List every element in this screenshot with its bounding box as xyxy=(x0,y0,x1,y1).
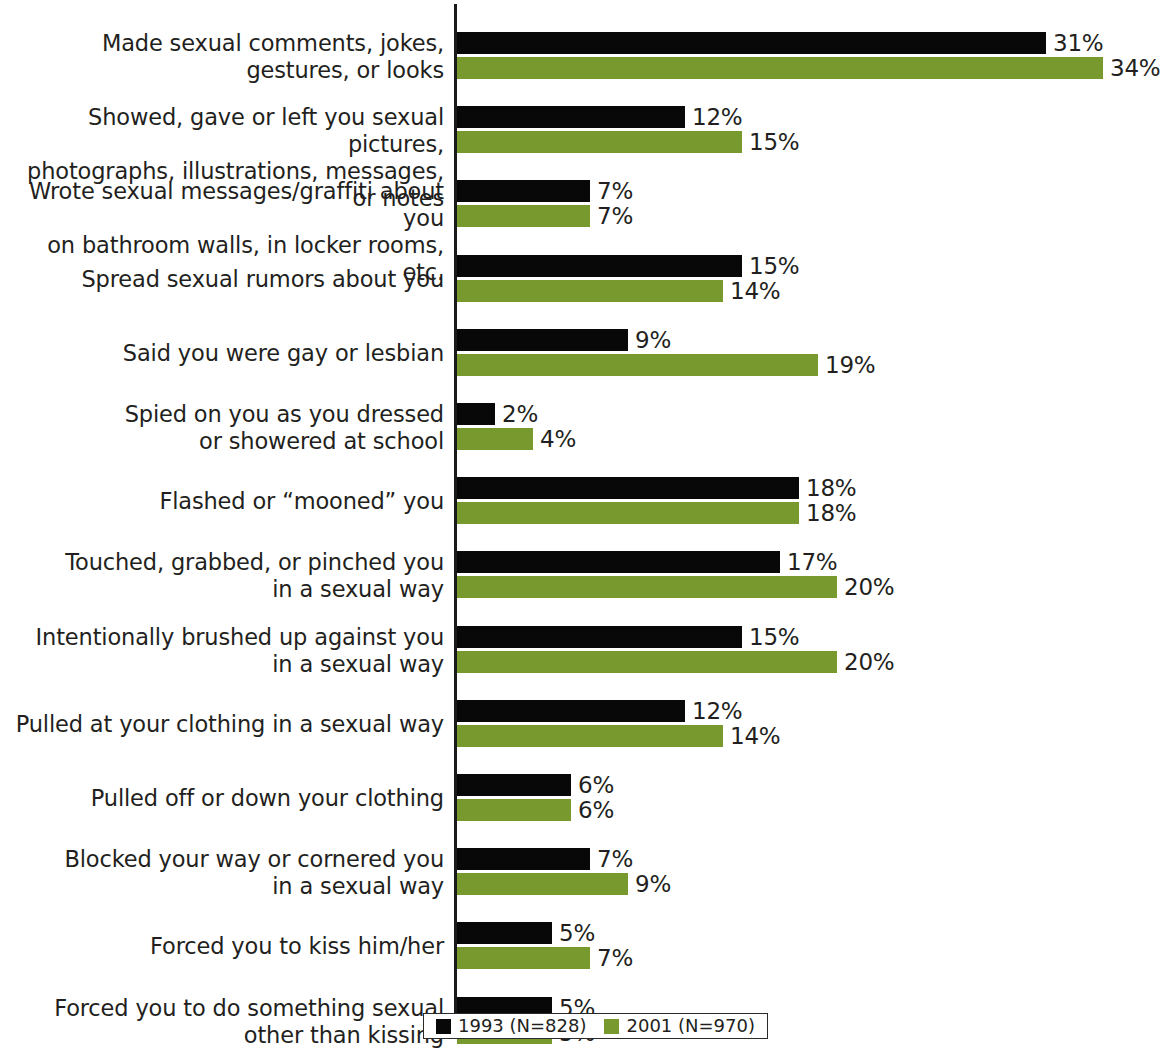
bar-value-label: 20% xyxy=(844,574,895,600)
bar-value-label: 4% xyxy=(540,426,576,452)
category-label: Blocked your way or cornered you in a se… xyxy=(14,846,444,900)
chart-row: Touched, grabbed, or pinched you in a se… xyxy=(0,547,1168,621)
bar-value-label: 7% xyxy=(597,178,633,204)
bar-value-label: 18% xyxy=(806,475,857,501)
bar-value-label: 9% xyxy=(635,327,671,353)
chart-row: Forced you to kiss him/her5%7% xyxy=(0,918,1168,992)
bar-1993 xyxy=(457,551,780,573)
bar-2001 xyxy=(457,873,628,895)
bar-1993 xyxy=(457,329,628,351)
bar-1993 xyxy=(457,403,495,425)
bar-value-label: 7% xyxy=(597,846,633,872)
bar-1993 xyxy=(457,106,685,128)
legend-swatch-black-icon xyxy=(436,1019,451,1034)
chart-row: Blocked your way or cornered you in a se… xyxy=(0,844,1168,918)
bar-1993 xyxy=(457,774,571,796)
legend-label-2001: 2001 (N=970) xyxy=(626,1016,754,1036)
bar-2001 xyxy=(457,428,533,450)
bar-value-label: 6% xyxy=(578,772,614,798)
bar-value-label: 15% xyxy=(749,129,800,155)
bar-value-label: 14% xyxy=(730,278,781,304)
legend-item-1993: 1993 (N=828) xyxy=(436,1016,586,1036)
bar-value-label: 12% xyxy=(692,698,743,724)
bar-2001 xyxy=(457,354,818,376)
bar-value-label: 6% xyxy=(578,797,614,823)
category-label: Touched, grabbed, or pinched you in a se… xyxy=(14,549,444,603)
chart-row: Flashed or “mooned” you18%18% xyxy=(0,473,1168,547)
bar-2001 xyxy=(457,576,837,598)
bar-value-label: 18% xyxy=(806,500,857,526)
bar-value-label: 14% xyxy=(730,723,781,749)
bar-1993 xyxy=(457,32,1046,54)
chart-row: Intentionally brushed up against you in … xyxy=(0,622,1168,696)
category-label: Made sexual comments, jokes, gestures, o… xyxy=(14,30,444,84)
bar-2001 xyxy=(457,205,590,227)
bar-value-label: 17% xyxy=(787,549,838,575)
bar-1993 xyxy=(457,700,685,722)
category-label: Pulled off or down your clothing xyxy=(14,785,444,812)
legend-label-1993: 1993 (N=828) xyxy=(458,1016,586,1036)
bar-value-label: 15% xyxy=(749,253,800,279)
bar-value-label: 9% xyxy=(635,871,671,897)
legend-swatch-green-icon xyxy=(604,1019,619,1034)
category-label: Forced you to kiss him/her xyxy=(14,933,444,960)
bar-value-label: 5% xyxy=(559,920,595,946)
bar-2001 xyxy=(457,57,1103,79)
bar-2001 xyxy=(457,799,571,821)
category-label: Said you were gay or lesbian xyxy=(14,340,444,367)
bar-1993 xyxy=(457,477,799,499)
category-label: Forced you to do something sexual other … xyxy=(14,995,444,1049)
category-label: Pulled at your clothing in a sexual way xyxy=(14,711,444,738)
bar-2001 xyxy=(457,131,742,153)
bar-value-label: 12% xyxy=(692,104,743,130)
category-label: Spread sexual rumors about you xyxy=(14,266,444,293)
bar-1993 xyxy=(457,848,590,870)
bar-1993 xyxy=(457,922,552,944)
category-label: Flashed or “mooned” you xyxy=(14,488,444,515)
chart-row: Pulled at your clothing in a sexual way1… xyxy=(0,696,1168,770)
bar-value-label: 15% xyxy=(749,624,800,650)
chart-row: Spread sexual rumors about you15%14% xyxy=(0,251,1168,325)
bar-value-label: 2% xyxy=(502,401,538,427)
bar-1993 xyxy=(457,626,742,648)
chart-row: Showed, gave or left you sexual pictures… xyxy=(0,102,1168,176)
bar-2001 xyxy=(457,947,590,969)
category-label: Intentionally brushed up against you in … xyxy=(14,624,444,678)
bar-2001 xyxy=(457,651,837,673)
chart-legend: 1993 (N=828) 2001 (N=970) xyxy=(423,1013,768,1039)
chart-row: Wrote sexual messages/graffiti about you… xyxy=(0,176,1168,250)
bar-value-label: 19% xyxy=(825,352,876,378)
chart-row: Pulled off or down your clothing6%6% xyxy=(0,770,1168,844)
chart-row: Spied on you as you dressed or showered … xyxy=(0,399,1168,473)
legend-item-2001: 2001 (N=970) xyxy=(604,1016,754,1036)
bar-value-label: 7% xyxy=(597,945,633,971)
bar-value-label: 20% xyxy=(844,649,895,675)
chart-row: Made sexual comments, jokes, gestures, o… xyxy=(0,28,1168,102)
bar-value-label: 31% xyxy=(1053,30,1104,56)
bar-2001 xyxy=(457,502,799,524)
bar-1993 xyxy=(457,180,590,202)
bar-value-label: 34% xyxy=(1110,55,1161,81)
category-label: Spied on you as you dressed or showered … xyxy=(14,401,444,455)
bar-1993 xyxy=(457,255,742,277)
bar-value-label: 7% xyxy=(597,203,633,229)
bar-2001 xyxy=(457,725,723,747)
chart-row: Said you were gay or lesbian9%19% xyxy=(0,325,1168,399)
bar-2001 xyxy=(457,280,723,302)
